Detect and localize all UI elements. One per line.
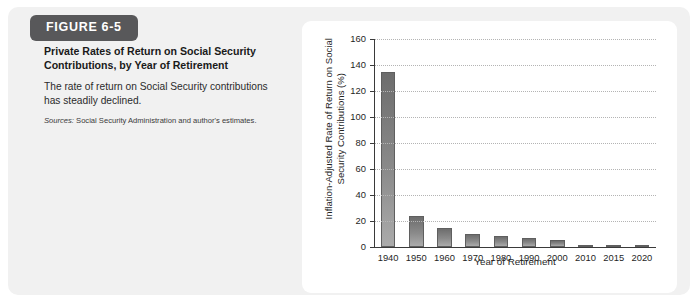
gridline	[374, 117, 656, 118]
gridline	[374, 39, 656, 40]
plot-area: 0204060801001201401601940195019601970198…	[374, 39, 656, 247]
bar	[635, 245, 650, 247]
figure-title: Private Rates of Return on Social Securi…	[44, 45, 282, 73]
y-tick-mark	[370, 169, 375, 170]
y-tick-mark	[370, 221, 375, 222]
y-tick-mark	[370, 247, 375, 248]
gridline	[374, 169, 656, 170]
gridline	[374, 91, 656, 92]
y-tick-mark	[370, 65, 375, 66]
bar	[606, 245, 621, 247]
y-tick-mark	[370, 195, 375, 196]
y-tick-mark	[370, 39, 375, 40]
y-tick-mark	[370, 117, 375, 118]
gridline	[374, 221, 656, 222]
bar	[550, 240, 565, 247]
figure-sources-lead: Sources:	[44, 116, 74, 125]
bar	[465, 234, 480, 247]
y-tick-label: 100	[338, 112, 366, 121]
y-tick-label: 160	[338, 34, 366, 43]
bar	[522, 238, 537, 247]
y-tick-label: 140	[338, 60, 366, 69]
y-tick-label: 60	[338, 164, 366, 173]
bar	[578, 245, 593, 247]
bar	[494, 236, 509, 247]
gridline	[374, 195, 656, 196]
y-tick-label: 120	[338, 86, 366, 95]
x-axis-label: Year of Retirement	[374, 257, 656, 267]
gridline	[374, 65, 656, 66]
figure-description: The rate of return on Social Security co…	[44, 80, 282, 108]
figure-sources: Sources: Social Security Administration …	[44, 116, 282, 126]
chart-panel: Inflation-Adjusted Rate of Return on Soc…	[302, 21, 677, 293]
bar-chart: Inflation-Adjusted Rate of Return on Soc…	[302, 21, 677, 293]
y-tick-label: 0	[338, 242, 366, 251]
y-tick-label: 80	[338, 138, 366, 147]
x-axis-line	[374, 247, 656, 248]
bar	[437, 228, 452, 248]
figure-sources-text: Social Security Administration and autho…	[74, 116, 257, 125]
y-tick-mark	[370, 143, 375, 144]
y-tick-label: 40	[338, 190, 366, 199]
figure-card: FIGURE 6-5 Private Rates of Return on So…	[8, 7, 690, 295]
y-tick-mark	[370, 91, 375, 92]
figure-caption-block: Private Rates of Return on Social Securi…	[44, 45, 282, 126]
gridline	[374, 143, 656, 144]
y-tick-label: 20	[338, 216, 366, 225]
figure-number-badge: FIGURE 6-5	[30, 15, 138, 41]
